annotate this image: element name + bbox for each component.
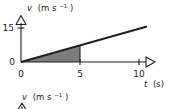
y-axis-title: v (m s −1 ) [27,0,73,13]
chart-canvas: 15 0 0 5 10 v (m s −1 ) t (s) v (m s −1 … [0,0,170,109]
x-axis-arrowhead-icon [146,57,155,67]
y-axis-title-unit-open: (m s [38,3,57,13]
x-axis-title-unit: (s) [153,79,164,89]
x-tick-label-5: 5 [77,69,83,79]
x-axis-title-variable: t [144,79,148,89]
second-chart-y-axis-title-unit-exponent: −1 [54,92,62,98]
second-chart-y-axis-title-unit-close: ) [65,92,68,102]
y-axis-title-unit-close: ) [70,3,73,13]
x-tick-label-0: 0 [18,69,24,79]
y-tick-label-0: 0 [9,57,15,67]
x-tick-label-10: 10 [133,69,145,79]
second-chart-y-axis-title-unit-open: (m s [33,92,52,102]
x-axis-title: t (s) [144,79,164,89]
second-chart-y-axis-title: v (m s −1 ) [22,89,68,102]
y-tick-label-15: 15 [3,23,14,33]
velocity-time-figure: 15 0 0 5 10 v (m s −1 ) t (s) v (m s −1 … [0,0,170,109]
y-axis-title-variable: v [27,3,33,13]
velocity-line-series [21,27,147,63]
y-axis-title-unit-exponent: −1 [59,3,67,9]
second-chart-y-axis-title-variable: v [22,92,28,102]
